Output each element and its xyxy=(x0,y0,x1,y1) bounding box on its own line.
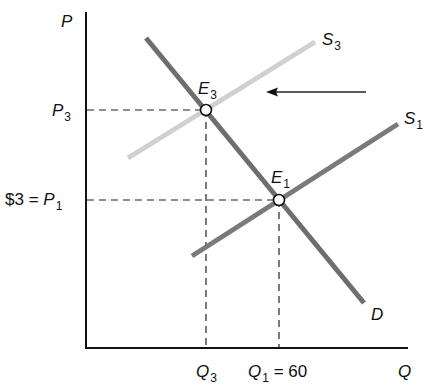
q1-tick-label: Q1 = 60 xyxy=(248,363,307,380)
p3-tick-label: P3 xyxy=(52,102,71,119)
supply-s1-label-sub: 1 xyxy=(416,118,423,132)
q3-tick-label: Q3 xyxy=(196,363,217,380)
q3-tick-sub: 3 xyxy=(210,371,217,385)
e3-label-sub: 3 xyxy=(210,88,217,102)
q1-tick-sub: 1 xyxy=(262,371,269,385)
supply-curve-s1 xyxy=(192,124,398,256)
q3-tick-main: Q xyxy=(196,362,209,381)
p1-tick-sub: 1 xyxy=(56,199,63,213)
supply-s3-label-main: S xyxy=(322,30,333,49)
supply-s3-label-sub: 3 xyxy=(334,39,341,53)
p3-tick-sub: 3 xyxy=(64,110,71,124)
supply-s1-label-main: S xyxy=(404,109,415,128)
e3-label-main: E xyxy=(198,79,209,98)
supply-curve-s3 xyxy=(128,42,315,158)
p1-tick-label: $3 = P1 xyxy=(5,191,62,208)
e3-label: E3 xyxy=(198,80,217,97)
supply-s1-label: S1 xyxy=(404,110,423,127)
e1-label-main: E xyxy=(271,168,282,187)
p1-tick-main: P xyxy=(43,190,54,209)
equilibrium-point-e3 xyxy=(201,105,212,116)
q1-tick-suffix: = 60 xyxy=(269,362,307,381)
supply-s3-label: S3 xyxy=(322,31,341,48)
p3-tick-main: P xyxy=(52,101,63,120)
equilibrium-point-e1 xyxy=(274,195,285,206)
y-axis-label: P xyxy=(61,13,72,30)
demand-label: D xyxy=(371,306,383,323)
e1-label-sub: 1 xyxy=(283,177,290,191)
x-axis-label: Q xyxy=(398,363,411,380)
q1-tick-main: Q xyxy=(248,362,261,381)
p1-tick-prefix: $3 = xyxy=(5,190,43,209)
e1-label: E1 xyxy=(271,169,290,186)
